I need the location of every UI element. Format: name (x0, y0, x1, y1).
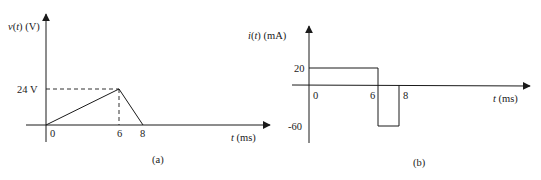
b-xtick-0: 0 (313, 90, 318, 101)
b-x-axis-label: t (ms) (493, 93, 518, 105)
a-xtick-0: 0 (50, 128, 55, 139)
a-caption: (a) (152, 154, 164, 166)
a-peak-label: 24 V (17, 84, 38, 95)
figure-canvas: v(t) (V) 24 V 0 6 8 t (ms) (a) i(t) (mA)… (0, 0, 541, 180)
b-ytick-20: 20 (294, 63, 305, 74)
a-voltage-waveform (46, 89, 143, 125)
a-y-axis-label: v(t) (V) (8, 21, 40, 33)
figure-b: i(t) (mA) 20 -60 0 6 8 t (ms) (b) (248, 26, 530, 169)
b-current-waveform (309, 68, 399, 126)
b-y-axis-label: i(t) (mA) (248, 30, 287, 42)
a-x-axis-label: t (ms) (231, 132, 256, 144)
figure-a: v(t) (V) 24 V 0 6 8 t (ms) (a) (8, 14, 270, 166)
b-ytick-neg60: -60 (288, 121, 302, 132)
b-xtick-8: 8 (403, 90, 408, 101)
b-x-axis (292, 85, 530, 86)
b-xtick-6: 6 (370, 90, 375, 101)
a-xtick-6: 6 (117, 128, 122, 139)
b-caption: (b) (413, 157, 426, 169)
a-xtick-8: 8 (140, 128, 145, 139)
